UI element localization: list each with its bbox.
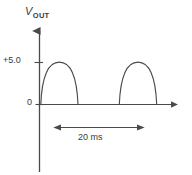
y-tick-label-0: 0 bbox=[27, 98, 32, 107]
period-duration-label: 20 ms bbox=[78, 133, 103, 142]
y-axis-title: VOUT bbox=[25, 6, 49, 17]
waveform-pulse-2 bbox=[119, 62, 156, 104]
waveform-figure: VOUT +5.0 0 20 ms bbox=[0, 0, 192, 175]
waveform-pulse-1 bbox=[41, 62, 78, 104]
y-tick-label-5v: +5.0 bbox=[3, 56, 21, 65]
y-axis-subscript: OUT bbox=[33, 11, 49, 20]
y-axis-symbol: V bbox=[25, 5, 32, 17]
waveform-plot bbox=[0, 0, 192, 175]
